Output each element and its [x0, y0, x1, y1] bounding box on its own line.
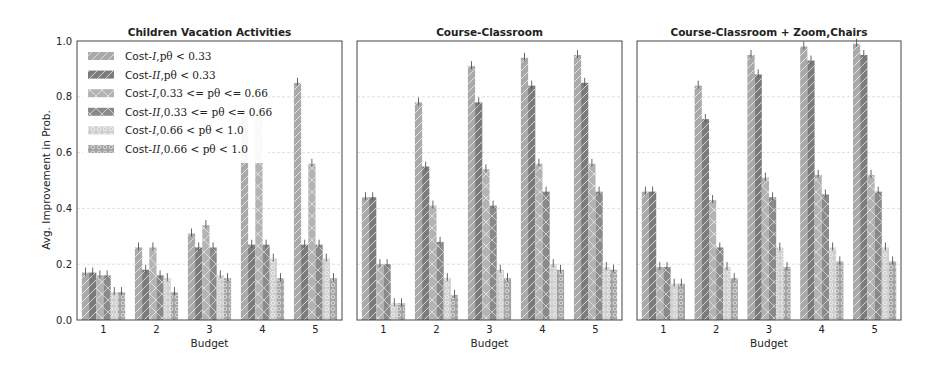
bar-hatch: [649, 192, 656, 320]
bar-hatch: [195, 247, 202, 320]
bar-hatch: [596, 192, 603, 320]
bar-hatch: [451, 295, 458, 320]
panel-title: Course-Classroom: [436, 26, 543, 38]
bar-hatch: [723, 267, 730, 320]
y-axis-label: Avg. Improvement in Prob.: [40, 110, 52, 250]
x-tick-label: 3: [766, 324, 772, 335]
bar-hatch: [376, 264, 383, 320]
bar-hatch: [889, 261, 896, 320]
y-tick-label: 0.0: [56, 315, 72, 326]
chart-legend: Cost-I,pθ < 0.33Cost-II,pθ < 0.33Cost-I,…: [83, 45, 272, 163]
bar-hatch: [603, 267, 610, 320]
bar-hatch: [111, 292, 118, 320]
chart-panel-3: 12345Course-Classroom + Zoom,ChairsBudge…: [637, 26, 901, 349]
bar-hatch: [776, 247, 783, 320]
bar-hatch: [422, 167, 429, 320]
legend-swatch-hatch: [88, 71, 114, 79]
bar-hatch: [574, 55, 581, 320]
bar-hatch: [142, 270, 149, 320]
y-tick-label: 0.4: [56, 203, 72, 214]
x-tick-label: 4: [819, 324, 825, 335]
bar-hatch: [277, 278, 284, 320]
legend-label: Cost-I,0.33 <= pθ <= 0.66: [125, 87, 268, 99]
x-tick-label: 5: [871, 324, 877, 335]
bar-hatch: [504, 278, 511, 320]
bar-hatch: [475, 102, 482, 320]
bar-hatch: [294, 83, 301, 320]
bar-hatch: [468, 66, 475, 320]
bar-hatch: [709, 200, 716, 320]
bar-hatch: [822, 194, 829, 320]
chart-svg: 12345Children Vacation ActivitiesBudget1…: [0, 0, 944, 367]
bar-hatch: [323, 259, 330, 320]
x-tick-label: 5: [592, 324, 598, 335]
x-axis-label: Budget: [191, 337, 229, 349]
chart-figure: 12345Children Vacation ActivitiesBudget1…: [0, 0, 944, 367]
bar-hatch: [656, 267, 663, 320]
bar-hatch: [429, 206, 436, 320]
bar-hatch: [490, 206, 497, 320]
bar-hatch: [270, 259, 277, 320]
x-tick-label: 4: [259, 324, 265, 335]
bar-hatch: [202, 225, 209, 320]
bar-hatch: [248, 245, 255, 320]
bar-hatch: [224, 278, 231, 320]
bar-hatch: [149, 247, 156, 320]
bar-hatch: [104, 275, 111, 320]
y-tick-label: 0.8: [56, 91, 72, 102]
bar-hatch: [308, 164, 315, 320]
bar-hatch: [550, 264, 557, 320]
legend-label: Cost-II,pθ < 0.33: [125, 69, 216, 81]
bar-hatch: [716, 247, 723, 320]
bar-hatch: [384, 264, 391, 320]
bar-hatch: [769, 197, 776, 320]
bar-hatch: [316, 245, 323, 320]
bar-hatch: [217, 275, 224, 320]
bar-hatch: [807, 61, 814, 320]
bar-hatch: [521, 58, 528, 320]
y-tick-label: 1.0: [56, 36, 72, 47]
legend-swatch-hatch: [88, 108, 114, 116]
bar-hatch: [164, 278, 171, 320]
x-axis-label: Budget: [471, 337, 509, 349]
bar-hatch: [747, 55, 754, 320]
y-tick-label: 0.6: [56, 147, 72, 158]
bar-hatch: [829, 247, 836, 320]
bar-hatch: [663, 267, 670, 320]
panel-title: Course-Classroom + Zoom,Chairs: [670, 26, 867, 38]
bar-hatch: [853, 44, 860, 320]
bar-hatch: [444, 278, 451, 320]
bar-hatch: [263, 245, 270, 320]
bar-hatch: [731, 278, 738, 320]
bar-hatch: [762, 178, 769, 320]
bar-hatch: [301, 245, 308, 320]
bar-hatch: [581, 83, 588, 320]
bar-hatch: [543, 192, 550, 320]
legend-swatch-hatch: [88, 52, 114, 60]
bar-hatch: [171, 292, 178, 320]
bar-hatch: [783, 267, 790, 320]
bar-hatch: [671, 284, 678, 320]
bar-hatch: [642, 192, 649, 320]
bar-hatch: [557, 270, 564, 320]
bar-hatch: [369, 197, 376, 320]
x-tick-label: 4: [539, 324, 545, 335]
bar-hatch: [815, 175, 822, 320]
bar-hatch: [89, 273, 96, 320]
bar-hatch: [588, 164, 595, 320]
x-tick-label: 1: [100, 324, 106, 335]
legend-label: Cost-II,0.33 <= pθ <= 0.66: [125, 106, 272, 118]
bar-hatch: [610, 270, 617, 320]
bar-hatch: [96, 275, 103, 320]
x-tick-label: 2: [433, 324, 439, 335]
bar-hatch: [135, 247, 142, 320]
legend-label: Cost-I,pθ < 0.33: [125, 50, 212, 62]
bar-hatch: [535, 164, 542, 320]
bar-hatch: [497, 270, 504, 320]
bar-hatch: [437, 242, 444, 320]
x-tick-label: 1: [660, 324, 666, 335]
legend-swatch-hatch: [88, 89, 114, 97]
bar-hatch: [210, 247, 217, 320]
x-tick-label: 2: [153, 324, 159, 335]
x-tick-label: 3: [486, 324, 492, 335]
